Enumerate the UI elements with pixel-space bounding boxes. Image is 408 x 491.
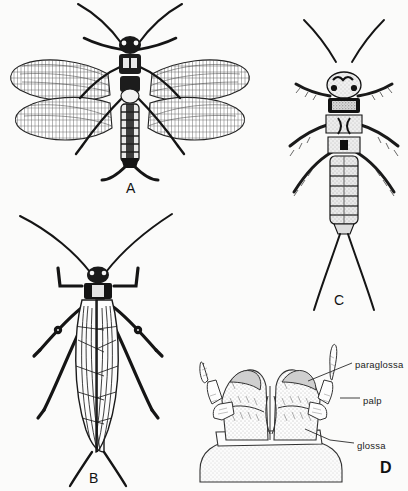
body-a [119,36,141,168]
panel-letter-a: A [126,181,135,195]
abdomen-c [330,156,358,234]
panel-letter-b: B [89,471,98,485]
figure-d-labium [199,344,360,482]
panel-letter-c: C [334,293,344,307]
plate-artwork [0,0,408,491]
illustration-plate: A B C D paraglossa palp glossa [0,0,408,491]
panel-letter-d: D [380,460,392,476]
callout-glossa: glossa [357,441,386,451]
figure-b-adult-folded [20,214,172,486]
cerci-a [102,166,158,180]
antennae-c [304,20,384,62]
callout-paraglossa: paraglossa [355,360,403,370]
callout-palp: palp [363,396,382,406]
antennae-b [20,214,172,272]
figure-c-nymph [290,20,398,310]
abdomen-a [121,104,139,168]
figure-a-winged-adult [10,4,258,180]
folded-wings-b [74,300,120,452]
